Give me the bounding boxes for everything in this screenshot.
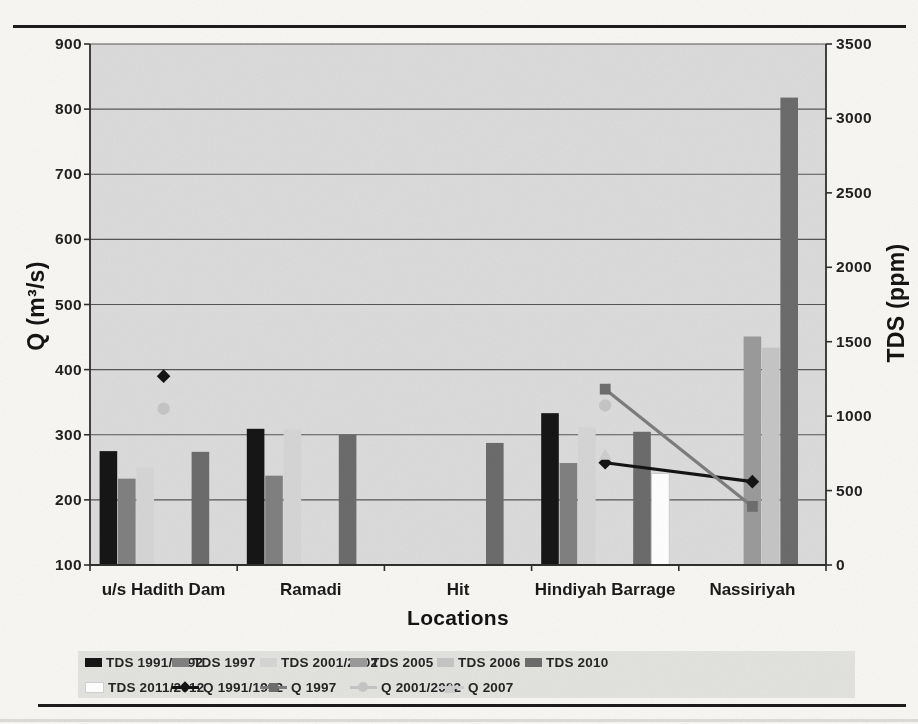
right-axis-tick-label-0: 0 — [836, 557, 886, 573]
bar-tds-1991-1992-ramadi — [247, 429, 265, 565]
right-axis-tick-label-500: 500 — [836, 483, 886, 499]
bar-tds-1997-hindiyah-barrage — [560, 463, 578, 565]
left-axis-tick-label-300: 300 — [36, 427, 82, 443]
scan-edge-artifact — [0, 719, 918, 722]
left-axis-tick-label-100: 100 — [36, 557, 82, 573]
legend-item-q-1997: Q 1997 — [260, 680, 336, 694]
legend-swatch-icon — [437, 658, 454, 667]
marker-q-2001-2002-u-s-hadith-dam — [157, 403, 169, 415]
legend-label: TDS 1997 — [193, 655, 255, 670]
bottom-horizontal-rule — [38, 704, 906, 707]
bar-tds-2001-2002-u-s-hadith-dam — [136, 467, 154, 565]
bar-tds-1997-u-s-hadith-dam — [118, 479, 136, 565]
x-category-label-ramadi: Ramadi — [237, 580, 385, 600]
legend-swatch-icon — [260, 658, 277, 667]
right-axis-tick-label-3500: 3500 — [836, 36, 886, 52]
bar-tds-2010-u-s-hadith-dam — [192, 452, 210, 565]
right-axis-title: TDS (ppm) — [883, 244, 910, 363]
legend-item-tds-2010: TDS 2010 — [525, 655, 608, 669]
left-axis-tick-label-900: 900 — [36, 36, 82, 52]
legend-swatch-icon — [525, 658, 542, 667]
left-axis-tick-label-700: 700 — [36, 166, 82, 182]
bar-tds-2010-hindiyah-barrage — [633, 432, 651, 565]
bar-tds-2011-2012-hindiyah-barrage — [652, 473, 670, 565]
legend-key-triangle-icon — [437, 681, 464, 694]
bar-tds-2005-nassiriyah — [744, 337, 762, 565]
legend-swatch-icon — [85, 658, 102, 667]
legend-key-diamond-icon — [172, 681, 199, 694]
right-axis-tick-label-2500: 2500 — [836, 185, 886, 201]
legend-label: Q 2007 — [468, 680, 513, 695]
legend-label: TDS 2010 — [546, 655, 608, 670]
bar-tds-1991-1992-hindiyah-barrage — [541, 413, 559, 565]
legend-swatch-icon — [85, 682, 104, 693]
legend-item-tds-2006: TDS 2006 — [437, 655, 520, 669]
bar-tds-2001-2002-hindiyah-barrage — [578, 427, 596, 565]
legend-swatch-icon — [172, 658, 189, 667]
bar-tds-2010-nassiriyah — [780, 98, 798, 565]
right-axis-tick-label-3000: 3000 — [836, 110, 886, 126]
x-category-label-hindiyah-barrage: Hindiyah Barrage — [531, 580, 679, 600]
scanned-chart-page: Q (m³/s) TDS (ppm) Locations 90080070060… — [0, 0, 918, 724]
legend-key-square-icon — [260, 681, 287, 694]
right-axis-tick-label-1500: 1500 — [836, 334, 886, 350]
right-axis-tick-label-2000: 2000 — [836, 259, 886, 275]
left-axis-tick-label-500: 500 — [36, 297, 82, 313]
left-axis-tick-label-400: 400 — [36, 362, 82, 378]
bar-tds-2010-hit — [486, 443, 504, 565]
right-axis-tick-label-1000: 1000 — [836, 408, 886, 424]
legend-label: TDS 2006 — [458, 655, 520, 670]
bar-tds-2001-2002-ramadi — [284, 430, 302, 565]
left-axis-tick-label-600: 600 — [36, 231, 82, 247]
legend-item-q-2007: Q 2007 — [437, 680, 513, 694]
x-axis-title: Locations — [407, 606, 509, 630]
left-axis-tick-label-800: 800 — [36, 101, 82, 117]
marker-q-1997-nassiriyah — [747, 501, 758, 512]
bar-tds-2006-nassiriyah — [762, 348, 780, 565]
bar-tds-1997-ramadi — [265, 476, 283, 565]
legend-item-tds-1997: TDS 1997 — [172, 655, 255, 669]
bar-tds-2010-ramadi — [339, 435, 357, 565]
legend-swatch-icon — [350, 658, 367, 667]
x-category-label-hit: Hit — [384, 580, 532, 600]
legend-label: TDS 2005 — [371, 655, 433, 670]
legend-key-circle-icon — [350, 681, 377, 694]
bar-tds-1991-1992-u-s-hadith-dam — [100, 451, 118, 565]
x-category-label-u-s-hadith-dam: u/s Hadith Dam — [90, 580, 238, 600]
legend-item-tds-2005: TDS 2005 — [350, 655, 433, 669]
left-axis-tick-label-200: 200 — [36, 492, 82, 508]
chart-legend: TDS 1991/1992TDS 1997TDS 2001/2002TDS 20… — [78, 651, 855, 698]
marker-q-2001-2002-hindiyah-barrage — [599, 399, 611, 411]
x-category-label-nassiriyah: Nassiriyah — [678, 580, 826, 600]
marker-q-1997-hindiyah-barrage — [600, 384, 611, 395]
legend-label: Q 1997 — [291, 680, 336, 695]
